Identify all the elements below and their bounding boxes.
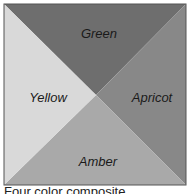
label-amber: Amber [79,154,117,169]
label-apricot: Apricot [132,90,172,105]
label-green: Green [81,26,117,41]
four-color-composite-diagram: Green Apricot Amber Yellow Four color co… [0,0,190,194]
diagram-caption: Four color composite [4,184,125,194]
label-yellow: Yellow [29,90,67,105]
